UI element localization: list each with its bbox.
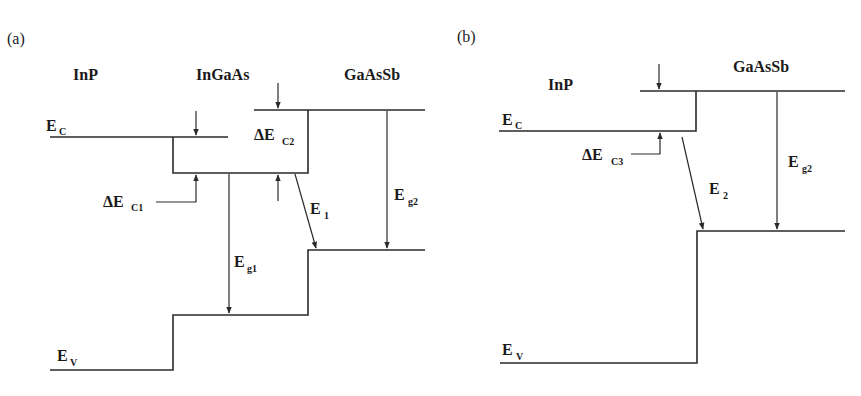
material-gaassb-label-b: GaAsSb xyxy=(733,58,789,75)
eg2-subscript-a: g2 xyxy=(408,196,418,207)
e2-label: E xyxy=(709,180,720,197)
ec-subscript: C xyxy=(59,126,66,137)
ec-subscript-b: C xyxy=(515,120,522,131)
material-inp-label: InP xyxy=(73,66,98,83)
e1-label: E xyxy=(310,200,321,217)
panel-a-label: (a) xyxy=(7,30,25,48)
delta-ec2-subscript: C2 xyxy=(282,136,294,147)
eg2-label-b: E xyxy=(788,153,799,170)
ev-label: E xyxy=(57,347,68,364)
ec-label-b: E xyxy=(502,111,513,128)
eg2-subscript-b: g2 xyxy=(802,163,812,174)
delta-ec1-subscript: C1 xyxy=(131,202,143,213)
delta-ec1-label: ΔE xyxy=(103,193,124,210)
ec-label: E xyxy=(46,117,57,134)
panel-b: (b) InP GaAsSb E C E V ΔE C3 E 2 E g2 xyxy=(457,28,845,363)
delta-ec3-leader-arrow xyxy=(631,133,660,154)
material-ingaas-label: InGaAs xyxy=(196,66,249,83)
e2-arrow xyxy=(682,137,703,229)
delta-ec3-subscript: C3 xyxy=(611,156,623,167)
e1-subscript: 1 xyxy=(324,210,329,221)
delta-ec3-label: ΔE xyxy=(582,146,603,163)
panel-a: (a) InP InGaAs GaAsSb E C E V ΔE C1 ΔE C… xyxy=(7,30,425,370)
eg2-label-a: E xyxy=(394,186,405,203)
panel-b-label: (b) xyxy=(457,28,476,46)
delta-ec1-leader-arrow xyxy=(156,175,196,202)
band-diagram: (a) InP InGaAs GaAsSb E C E V ΔE C1 ΔE C… xyxy=(0,0,861,396)
e2-subscript: 2 xyxy=(723,190,728,201)
inp-conduction-band-b xyxy=(499,91,696,131)
ev-subscript: V xyxy=(70,357,78,368)
material-gaassb-label: GaAsSb xyxy=(344,66,400,83)
eg1-label: E xyxy=(234,253,245,270)
ev-subscript-b: V xyxy=(516,351,524,362)
valence-band-b xyxy=(500,231,845,363)
material-inp-label-b: InP xyxy=(548,76,573,93)
ev-label-b: E xyxy=(502,341,513,358)
delta-ec2-label: ΔE xyxy=(254,126,275,143)
eg1-subscript: g1 xyxy=(247,263,257,274)
